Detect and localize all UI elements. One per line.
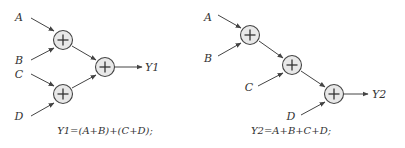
output-label: Y2: [372, 88, 386, 101]
input-label: C: [15, 68, 24, 81]
arrow: [301, 102, 325, 115]
arrow: [31, 48, 54, 60]
diagram-tree: ABCDY1Y1=(A+B)+(C+D);: [14, 11, 160, 136]
adder-node: [325, 85, 344, 104]
adder-diagrams: ABCDY1Y1=(A+B)+(C+D);ABCDY2Y2=A+B+C+D;: [0, 0, 405, 148]
output-label: Y1: [145, 61, 159, 74]
input-label: D: [286, 110, 296, 123]
input-label: B: [203, 52, 212, 65]
arrow: [259, 41, 283, 58]
adder-node: [54, 85, 73, 104]
arrow: [218, 15, 241, 28]
input-label: A: [203, 11, 212, 24]
adder-node: [241, 26, 260, 45]
arrow: [31, 74, 54, 86]
expression-caption: Y2=A+B+C+D;: [251, 125, 331, 136]
arrow: [218, 43, 241, 56]
input-label: B: [14, 54, 23, 67]
arrow: [301, 71, 325, 87]
expression-caption: Y1=(A+B)+(C+D);: [57, 125, 153, 136]
arrow: [258, 73, 283, 86]
arrow: [31, 103, 54, 116]
input-label: D: [14, 110, 24, 123]
adder-node: [96, 58, 115, 77]
adder-node: [283, 56, 302, 75]
adder-node: [54, 31, 73, 50]
diagram-chain: ABCDY2Y2=A+B+C+D;: [203, 11, 386, 136]
input-label: A: [14, 11, 23, 24]
input-label: C: [245, 81, 254, 94]
arrow: [31, 18, 54, 31]
arrow: [72, 46, 96, 60]
arrow: [72, 75, 96, 88]
